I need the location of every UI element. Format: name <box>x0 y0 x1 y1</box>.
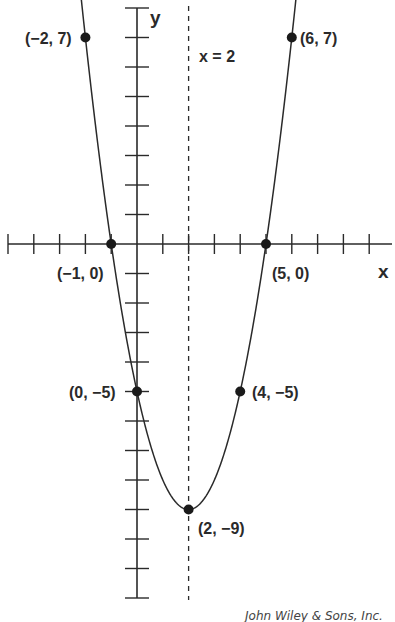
label-point-0-neg5: (0, −5) <box>69 384 116 401</box>
label-point-2-neg9: (2, −9) <box>198 520 245 537</box>
data-point <box>80 33 90 43</box>
symmetry-label: x = 2 <box>199 48 235 65</box>
x-axis-label: x <box>378 261 389 282</box>
y-axis-label: y <box>150 7 161 28</box>
label-point-6-7: (6, 7) <box>300 30 337 47</box>
label-point-5-0: (5, 0) <box>272 265 309 282</box>
label-point-neg1-0: (−1, 0) <box>57 265 104 282</box>
credit-text: John Wiley & Sons, Inc. <box>243 609 383 622</box>
label-point-4-neg5: (4, −5) <box>252 384 299 401</box>
y-axis-ticks <box>125 8 149 598</box>
data-point <box>132 387 142 397</box>
data-point <box>184 505 194 515</box>
plotted-points <box>80 33 296 515</box>
data-point <box>235 387 245 397</box>
data-point <box>287 33 297 43</box>
data-point <box>106 239 116 249</box>
data-point <box>261 239 271 249</box>
parabola-chart: y x x = 2 (−2, 7) (6, 7) (−1, 0) (5, 0) … <box>0 0 395 622</box>
label-point-neg2-7: (−2, 7) <box>25 30 72 47</box>
